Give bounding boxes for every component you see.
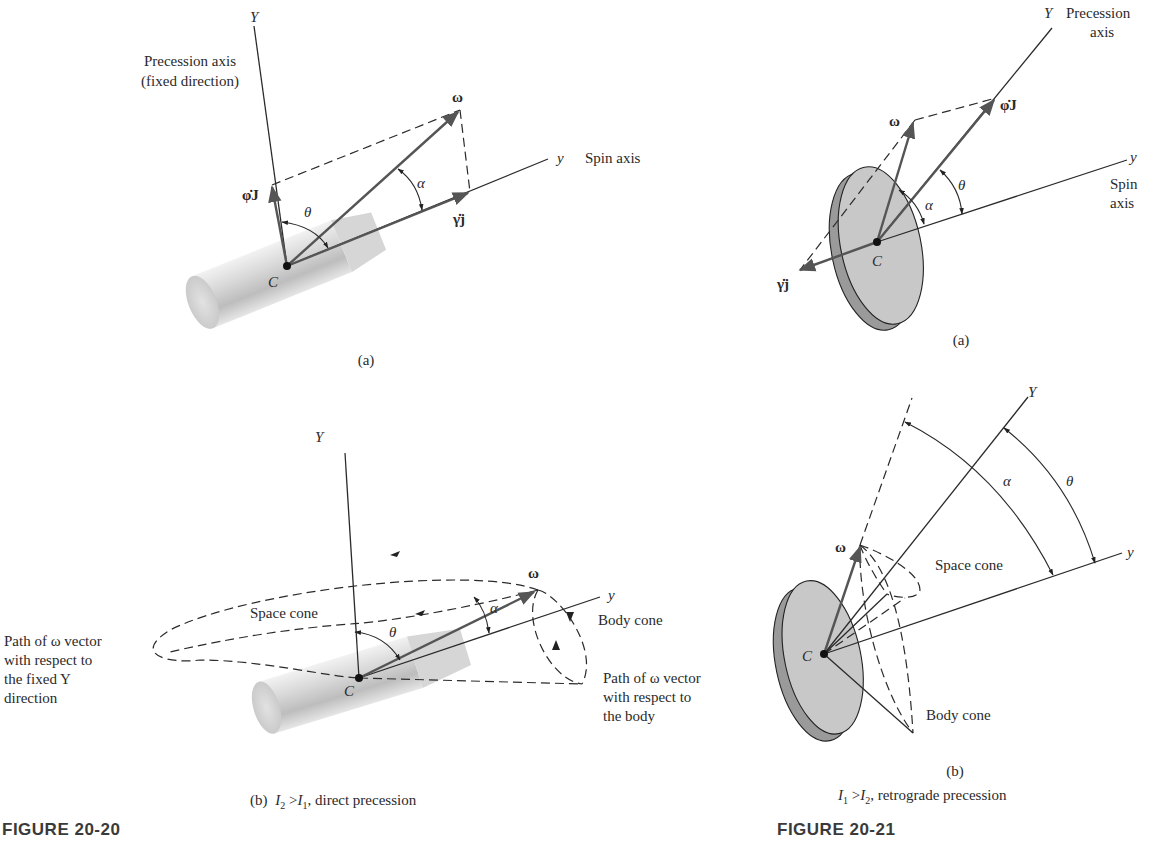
y-axis-label: y	[1128, 149, 1137, 165]
direction-arrow	[566, 612, 574, 622]
center-label: C	[268, 274, 279, 290]
note-line: with respect to	[603, 689, 691, 705]
body-cone-path	[533, 590, 582, 684]
path-fixed-note: Path of ω vector with respect to the fix…	[4, 633, 102, 706]
precession-label: Precession	[1066, 5, 1131, 21]
gamma-dot-j-label: γ̇j	[776, 276, 789, 292]
Y-axis-label: Y	[250, 9, 260, 25]
center-label: C	[802, 648, 813, 664]
precession-axis-label: Precession axis	[144, 53, 236, 69]
dashed-projection	[915, 98, 996, 120]
omega-label: ω	[528, 565, 539, 581]
precession-axis-Y	[254, 26, 287, 266]
spin-axis-y	[877, 160, 1127, 242]
alpha-label: α	[1003, 473, 1012, 489]
spin-axis-label: Spin axis	[585, 150, 641, 166]
space-cone-label: Space cone	[250, 605, 318, 621]
space-cone-path	[860, 545, 887, 594]
precession-sublabel: axis	[1090, 24, 1114, 40]
alpha-label: α	[925, 197, 934, 213]
direction-arrow	[390, 551, 400, 557]
space-cone-label: Space cone	[935, 557, 1003, 573]
center-point	[355, 674, 363, 682]
spin-label: Spin	[1110, 176, 1138, 192]
center-label: C	[872, 253, 883, 269]
note-line: the fixed Y	[4, 671, 71, 687]
spin-sublabel: axis	[1110, 195, 1134, 211]
figure-label: FIGURE 20-20	[2, 820, 120, 839]
omega-label: ω	[452, 89, 463, 105]
panel-caption: (b) I2 >I1, direct precession	[250, 792, 417, 811]
alpha-arc	[905, 422, 1053, 575]
fig20-20-panel-b: Y ω y α θ C Space cone Body cone Path of…	[2, 429, 701, 839]
note-line: the body	[603, 708, 656, 724]
panel-caption-detail: I1 >I2, retrograde precession	[837, 787, 1007, 806]
precession-axis-sublabel: (fixed direction)	[141, 73, 239, 90]
note-line: Path of ω vector	[4, 633, 102, 649]
direction-arrow	[552, 640, 560, 650]
center-point	[283, 262, 291, 270]
omega-label: ω	[889, 113, 900, 129]
dashed-projection	[272, 110, 460, 185]
body-cone-label: Body cone	[926, 707, 991, 723]
center-label: C	[344, 683, 355, 699]
fig20-20-panel-a: Y Precession axis (fixed direction) ω y …	[141, 9, 641, 369]
alpha-label: α	[490, 600, 499, 616]
fig20-21-panel-a: Y Precession axis φ̇J ω y Spin axis α θ …	[776, 5, 1138, 349]
note-line: Path of ω vector	[603, 670, 701, 686]
fig20-21-panel-b: Y y α θ ω Space cone Body cone C (b) I1 …	[759, 384, 1134, 839]
y-axis-label: y	[606, 587, 615, 603]
y-axis-label: y	[1125, 544, 1134, 560]
disk	[815, 159, 937, 338]
alpha-label: α	[417, 175, 426, 191]
path-body-note: Path of ω vector with respect to the bod…	[603, 670, 701, 724]
omega-label: ω	[835, 539, 846, 555]
diagram-canvas: Y Precession axis (fixed direction) ω y …	[0, 0, 1161, 850]
Y-axis-label: Y	[1044, 5, 1054, 21]
note-line: direction	[4, 690, 58, 706]
figure-label: FIGURE 20-21	[777, 820, 895, 839]
phi-dot-J-label: φ̇J	[1000, 97, 1017, 113]
Y-axis-label: Y	[1028, 384, 1038, 400]
gamma-dot-j-label: γ̇j	[452, 211, 465, 227]
dashed-projection	[460, 110, 470, 192]
cylinder-body	[179, 205, 389, 333]
Y-axis	[345, 453, 359, 678]
center-point	[820, 650, 828, 658]
theta-label: θ	[389, 624, 397, 640]
center-point	[873, 238, 881, 246]
omega-direction-dashed	[860, 398, 912, 545]
Y-axis	[824, 397, 1028, 654]
disk	[759, 573, 877, 748]
phi-dot-J-label: φ̇J	[242, 187, 259, 203]
panel-caption: (a)	[953, 332, 970, 349]
body-cone-label: Body cone	[598, 612, 663, 628]
theta-label: θ	[304, 204, 312, 220]
theta-label: θ	[1066, 473, 1074, 489]
theta-label: θ	[958, 177, 966, 193]
panel-caption: (b)	[946, 763, 964, 780]
y-axis-label: y	[555, 150, 564, 166]
panel-caption: (a)	[358, 352, 375, 369]
Y-axis-label: Y	[315, 429, 325, 445]
theta-arc	[1004, 428, 1095, 563]
note-line: with respect to	[4, 652, 92, 668]
